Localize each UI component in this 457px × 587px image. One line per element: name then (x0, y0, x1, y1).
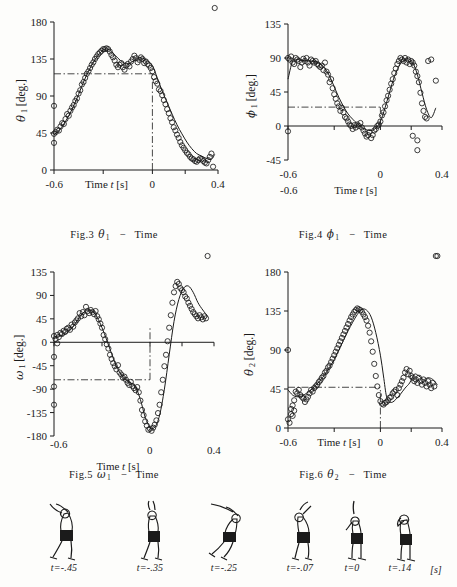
fig4-canvas: -4504590135 (236, 8, 454, 198)
data-point (293, 55, 298, 60)
data-point (367, 330, 372, 335)
fig3-y-axis-label: θ 1 [deg.] (14, 79, 29, 122)
fig4-y-tick-label: 45 (270, 86, 282, 98)
fig4-x-min-label: -0.6 (280, 184, 297, 196)
data-point (162, 364, 167, 369)
data-point (419, 101, 424, 106)
fig6-y-tick-label: 90 (270, 344, 282, 356)
fig5-y-tick-label: -135 (27, 407, 48, 419)
fig5-y-tick-label: -180 (27, 430, 48, 442)
caption-fig6-subscript: 2 (335, 473, 341, 482)
caption-fig4-subscript: 1 (335, 233, 341, 242)
caption-fig4-tail: Time (364, 229, 387, 240)
data-point (187, 303, 192, 308)
fig5-y-axis-label: ω 1 [deg.] (12, 335, 27, 380)
pose-t-014-silhouette-icon (374, 500, 426, 562)
data-point (322, 60, 327, 65)
figure-fig5: -180-135-90-4504590135ω 1 [deg.]00.4Time… (6, 256, 230, 456)
caption-fig4: Fig.4 ϕ1 − Time (229, 228, 457, 242)
fig4-x-tick-label: -0.6 (280, 168, 297, 180)
fig3-y-tick-label: 135 (31, 53, 48, 65)
fig5-y-tick-label: -90 (32, 383, 47, 395)
caption-fig5-subscript: 1 (107, 473, 113, 482)
data-point (344, 116, 349, 121)
fig6-y-axis-label: θ 2 [deg.] (242, 333, 257, 376)
fig4-y-tick-label: 135 (265, 18, 282, 30)
pose-t-minus-007-time-label: t=-.07 (274, 562, 326, 573)
fig5-x-tick-label: 0.4 (207, 444, 221, 456)
caption-fig3-tail: Time (134, 229, 157, 240)
caption-fig3-dash: − (115, 229, 131, 240)
data-point (292, 398, 297, 403)
fig6-fit-curve (288, 309, 437, 403)
caption-fig6: Fig.6 θ2 − Time (229, 468, 457, 482)
pose-t-minus-025-silhouette-icon (198, 500, 250, 562)
fig5-y-tick-label: 90 (36, 289, 48, 301)
pose-t-minus-045: t=-.45 (38, 500, 90, 573)
pose-t-minus-035: t=-.35 (124, 500, 176, 573)
data-point (159, 390, 164, 395)
data-point (167, 325, 172, 330)
pose-t-minus-035-silhouette-icon (124, 500, 176, 562)
caption-fig5-number: Fig.5 (69, 469, 93, 480)
data-point (373, 373, 378, 378)
figure-sheet: 04590135180θ 1 [deg.]-0.600.4Time t [s] … (0, 0, 457, 587)
fig4-y-tick-label: 90 (270, 52, 282, 64)
caption-fig4-dash: − (344, 229, 360, 240)
caption-fig6-tail: Time (363, 469, 386, 480)
data-point (163, 352, 168, 357)
fig5-y-tick-label: 135 (31, 266, 48, 278)
caption-fig6-number: Fig.6 (299, 469, 323, 480)
pose-t-014-time-label: t=.14 (374, 562, 426, 573)
caption-fig5-symbol: ω (96, 468, 107, 480)
data-point (370, 349, 375, 354)
figure-fig4: -4504590135ϕ 1 [deg.]-0.600.4Time t [s]-… (236, 8, 454, 198)
data-point (139, 407, 144, 412)
outlier-data-point (429, 57, 434, 62)
fig3-y-tick-label: 90 (36, 90, 48, 102)
fig6-y-tick-label: 135 (265, 305, 282, 317)
data-point (365, 323, 370, 328)
fig3-scatter-series (51, 5, 217, 169)
caption-fig3-number: Fig.3 (70, 229, 94, 240)
pose-t-minus-025-time-label: t=-.25 (198, 562, 250, 573)
data-point (292, 408, 297, 413)
fig6-y-tick-label: 0 (276, 422, 282, 434)
data-point (424, 116, 429, 121)
figure-fig6: 04590135180θ 2 [deg.]-0.600.4Time t [s] (236, 256, 454, 456)
outlier-data-point (415, 138, 420, 143)
pose-t-minus-007: t=-.07 (274, 500, 326, 573)
caption-fig3-symbol: θ (97, 228, 106, 240)
pose-t-zero-time-label: t=0 (326, 562, 378, 573)
pose-t-minus-035-time-label: t=-.35 (124, 562, 176, 573)
pose-strip-unit-label: [s] (430, 564, 442, 575)
fig3-canvas: 04590135180 (6, 8, 230, 198)
data-point (93, 308, 98, 313)
data-point (369, 339, 374, 344)
fig3-fit-curve (54, 49, 215, 160)
fig4-y-tick-label: 0 (276, 120, 282, 132)
fig3-x-axis-label: Time t [s] (85, 178, 128, 190)
fig5-scatter-series (51, 253, 210, 433)
outlier-data-point (433, 78, 438, 83)
outlier-data-point (415, 148, 420, 153)
data-point (171, 290, 176, 295)
figure-fig3: 04590135180θ 1 [deg.]-0.600.4Time t [s] (6, 8, 230, 198)
caption-fig4-number: Fig.4 (299, 229, 323, 240)
fig6-x-tick-label: 0 (377, 436, 383, 448)
pose-t-014: t=.14 (374, 500, 426, 573)
pose-sequence-strip: t=-.45 t=-.35 t=-.25 t=-.07 t=0 t=.14[s] (0, 498, 457, 587)
data-point (335, 101, 340, 106)
caption-fig4-symbol: ϕ (326, 228, 336, 240)
caption-fig6-dash: − (344, 469, 360, 480)
data-point (422, 114, 427, 119)
fig5-y-tick-label: 45 (36, 313, 48, 325)
fig5-y-tick-label: 0 (42, 336, 48, 348)
data-point (327, 80, 332, 85)
data-point (318, 64, 323, 69)
pose-t-zero: t=0 (326, 500, 378, 573)
data-point (395, 61, 400, 66)
fig3-x-tick-label: 0 (149, 178, 155, 190)
fig5-y-tick-label: -45 (32, 360, 47, 372)
caption-fig5-tail: Time (136, 469, 159, 480)
